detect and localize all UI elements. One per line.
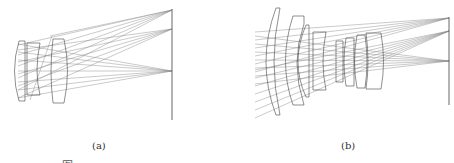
panel-a-label: (a) (92, 140, 106, 151)
panel-b-label: (b) (341, 140, 355, 151)
panel-b-lens-4 (313, 32, 326, 90)
panel-a-diagram (15, 9, 173, 120)
panel-b-diagram (255, 8, 449, 118)
panel-b-rays (255, 18, 449, 118)
optical-layout-figure (0, 0, 454, 163)
panel-b-lens-6 (344, 38, 354, 86)
panel-a-rays (18, 10, 172, 100)
panel-b-lens-1 (266, 8, 280, 115)
figure-caption-partial: 图 (62, 157, 79, 163)
